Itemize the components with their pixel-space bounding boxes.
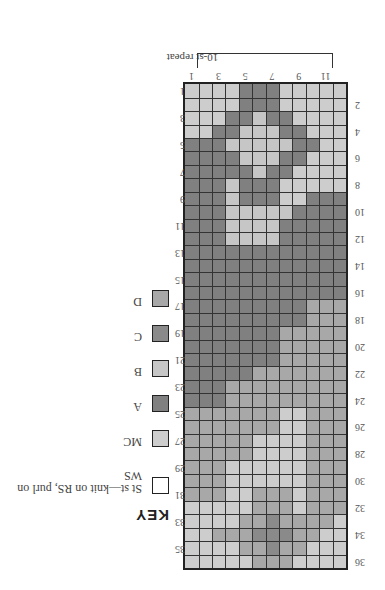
chart-cell [185, 178, 198, 191]
chart-cell [333, 138, 346, 151]
chart-cell [199, 326, 212, 339]
chart-cell [266, 474, 279, 487]
chart-cell [212, 151, 225, 164]
chart-cell [319, 84, 332, 97]
chart-cell [185, 501, 198, 514]
chart-cell [279, 366, 292, 379]
chart-cell [266, 165, 279, 178]
chart-cell [319, 447, 332, 460]
row-label: 24 [355, 396, 375, 407]
chart-cell [199, 501, 212, 514]
chart-cell [185, 165, 198, 178]
chart-cell [292, 487, 305, 500]
chart-cell [252, 259, 265, 272]
chart-cell [185, 138, 198, 151]
key-item-b: B [9, 358, 169, 378]
chart-cell [212, 353, 225, 366]
chart-cell [292, 232, 305, 245]
chart-cell [185, 299, 198, 312]
chart-cell [266, 125, 279, 138]
chart-cell [239, 84, 252, 97]
row-label: 5 [165, 140, 185, 151]
chart-cell [319, 420, 332, 433]
chart-cell [225, 246, 238, 259]
chart-cell [252, 111, 265, 124]
chart-cell [199, 178, 212, 191]
chart-cell [306, 219, 319, 232]
chart-cell [212, 407, 225, 420]
chart-cell [266, 501, 279, 514]
chart-cell [185, 366, 198, 379]
chart-cell [185, 219, 198, 232]
chart-cell [266, 219, 279, 232]
chart-cell [212, 125, 225, 138]
chart-cell [185, 125, 198, 138]
chart-cell [266, 514, 279, 527]
chart-cell [225, 205, 238, 218]
chart-cell [319, 178, 332, 191]
chart-cell [266, 326, 279, 339]
chart-grid [183, 82, 348, 570]
chart-cell [292, 393, 305, 406]
chart-cell [199, 125, 212, 138]
chart-cell [212, 380, 225, 393]
chart-cell [199, 192, 212, 205]
chart-cell [266, 246, 279, 259]
chart-cell [225, 555, 238, 568]
chart-cell [239, 353, 252, 366]
chart-cell [306, 420, 319, 433]
chart-cell [279, 246, 292, 259]
chart-cell [333, 286, 346, 299]
chart-cell [252, 205, 265, 218]
chart-cell [292, 272, 305, 285]
chart-cell [279, 340, 292, 353]
chart-cell [185, 461, 198, 474]
chart-cell [319, 125, 332, 138]
chart-cell [306, 232, 319, 245]
chart-cell [333, 487, 346, 500]
chart-cell [266, 541, 279, 554]
row-label: 9 [165, 194, 185, 205]
chart-cell [292, 434, 305, 447]
key-label: MC [123, 435, 142, 448]
chart-cell [279, 353, 292, 366]
chart-cell [185, 447, 198, 460]
chart-cell [266, 178, 279, 191]
column-labels: 1357911 [184, 68, 346, 82]
chart-cell [239, 259, 252, 272]
chart-cell [333, 380, 346, 393]
chart-cell [225, 259, 238, 272]
swatch-icon [152, 290, 169, 307]
chart-cell [292, 501, 305, 514]
chart-cell [239, 514, 252, 527]
chart-cell [279, 541, 292, 554]
key-label: A [133, 400, 142, 413]
chart-cell [333, 326, 346, 339]
chart-cell [239, 420, 252, 433]
chart-cell [199, 407, 212, 420]
chart-cell [306, 501, 319, 514]
chart-cell [225, 84, 238, 97]
row-label: 18 [355, 315, 375, 326]
chart-cell [266, 555, 279, 568]
chart-cell [252, 461, 265, 474]
chart-cell [225, 178, 238, 191]
row-label: 35 [165, 544, 185, 555]
chart-cell [225, 299, 238, 312]
chart-cell [199, 447, 212, 460]
row-label: 14 [355, 261, 375, 272]
chart-cell [185, 111, 198, 124]
row-label: 11 [165, 221, 185, 232]
chart-cell [239, 232, 252, 245]
chart-cell [266, 528, 279, 541]
chart-cell [252, 178, 265, 191]
swatch-icon [152, 477, 169, 494]
row-label: 4 [355, 127, 375, 138]
chart-cell [306, 447, 319, 460]
chart-cell [292, 407, 305, 420]
key-item-a: A [9, 393, 169, 413]
chart-cell [239, 380, 252, 393]
chart-cell [225, 380, 238, 393]
chart-cell [239, 111, 252, 124]
chart-cell [199, 461, 212, 474]
